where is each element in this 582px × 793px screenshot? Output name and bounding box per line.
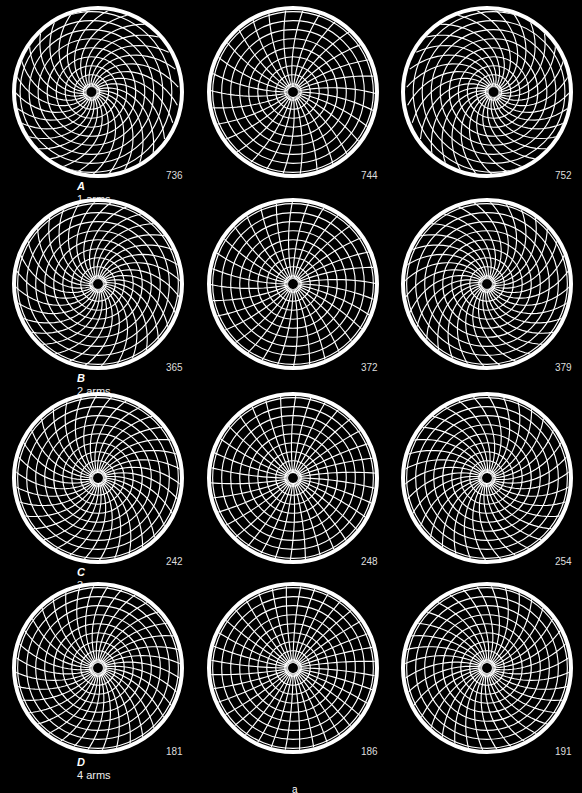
cell-count-label: 191	[555, 746, 572, 757]
tiling-disk-d-3	[401, 582, 573, 754]
cell-count-label: 181	[166, 746, 183, 757]
cell-count-label: 379	[555, 362, 572, 373]
tiling-disk-b-2	[207, 198, 379, 370]
row-letter-label: A	[77, 180, 85, 192]
cell-count-label: 254	[555, 556, 572, 567]
tiling-disk-c-3	[401, 392, 573, 564]
cell-count-label: 365	[166, 362, 183, 373]
cell-count-label: 248	[361, 556, 378, 567]
cell-count-label: 744	[361, 170, 378, 181]
footer-mark: a	[292, 784, 298, 793]
row-letter-label: B	[77, 372, 85, 384]
tiling-disk-a-1	[12, 6, 184, 178]
tiling-disk-d-1	[12, 582, 184, 754]
cell-count-label: 242	[166, 556, 183, 567]
cell-count-label: 736	[166, 170, 183, 181]
row-letter-label: D	[77, 756, 85, 768]
cell-count-label: 186	[361, 746, 378, 757]
row-letter-label: C	[77, 566, 85, 578]
tiling-disk-c-1	[12, 392, 184, 564]
tiling-disk-b-1	[12, 198, 184, 370]
tiling-disk-a-3	[401, 6, 573, 178]
cell-count-label: 752	[555, 170, 572, 181]
tiling-disk-c-2	[207, 392, 379, 564]
tiling-disk-d-2	[207, 582, 379, 754]
tiling-disk-a-2	[207, 6, 379, 178]
row-arms-label: 4 arms	[77, 769, 111, 781]
cell-count-label: 372	[361, 362, 378, 373]
tiling-disk-b-3	[401, 198, 573, 370]
